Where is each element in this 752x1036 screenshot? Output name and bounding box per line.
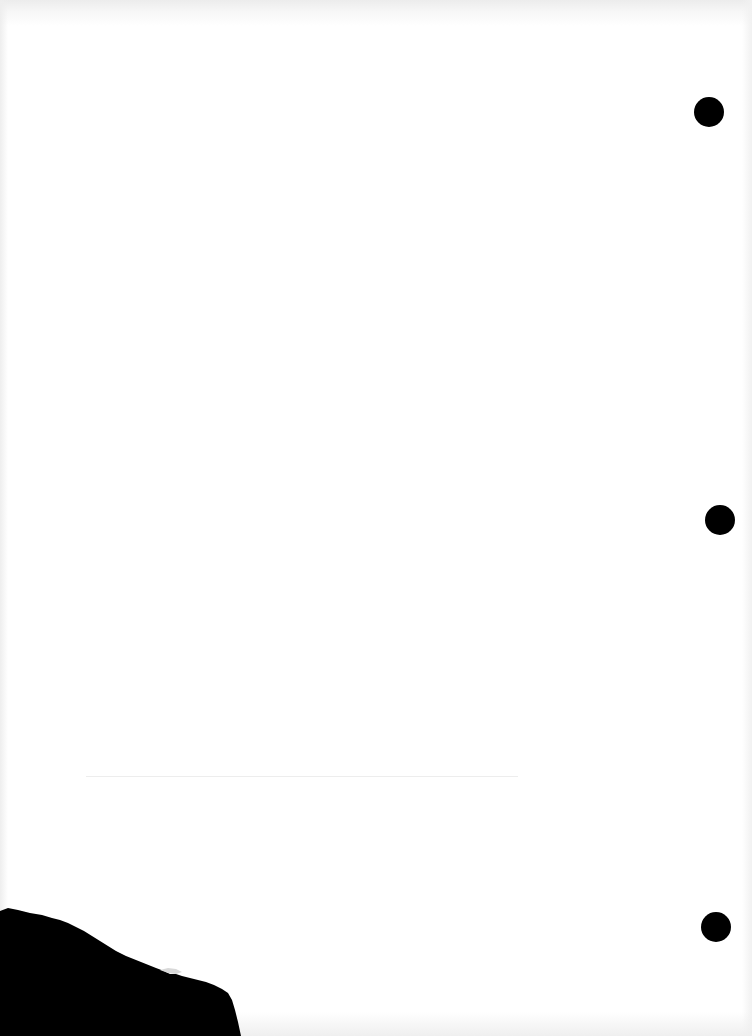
punch-hole-top (694, 97, 724, 127)
punch-hole-middle (705, 505, 735, 535)
punch-hole-bottom (701, 912, 731, 942)
scan-shadow-left (0, 0, 8, 1036)
torn-corner-shadow (0, 896, 245, 1036)
scan-shadow-right (742, 0, 752, 1036)
faint-horizontal-rule (86, 776, 518, 777)
scanned-page (0, 0, 752, 1036)
scan-shadow-top (0, 0, 752, 26)
